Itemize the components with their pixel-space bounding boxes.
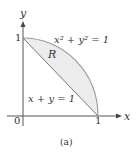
y-tick-label: 1 (15, 32, 21, 43)
x-axis-label: x (124, 110, 131, 123)
x-tick-label: 1 (95, 115, 101, 126)
circle-equation-label: x² + y² = 1 (54, 34, 109, 45)
region-label: R (47, 48, 56, 61)
origin-label: 0 (14, 115, 20, 126)
figure-caption: (a) (60, 137, 72, 147)
x-axis-arrow-icon (116, 114, 122, 119)
line-equation-label: x + y = 1 (28, 93, 75, 104)
y-axis-arrow-icon (21, 21, 26, 27)
region-diagram: y x 0 1 1 x² + y² = 1 R x + y = 1 (a) (0, 0, 136, 158)
y-axis-label: y (19, 7, 27, 20)
